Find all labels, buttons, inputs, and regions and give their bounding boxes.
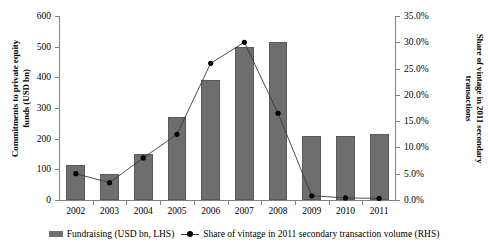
line-marker <box>343 195 348 200</box>
x-tick <box>295 201 296 205</box>
chart-legend: Fundraising (USD bn, LHS) Share of vinta… <box>0 229 488 239</box>
dual-axis-chart: Commitments to private equity funds (USD… <box>0 0 488 250</box>
right-tick <box>396 69 400 70</box>
left-tick-label: 500 <box>0 42 51 52</box>
x-axis-label: 2011 <box>358 206 400 216</box>
x-tick <box>228 201 229 205</box>
bar-swatch-icon <box>49 231 63 237</box>
right-tick-label: 5.0% <box>404 169 464 179</box>
line-marker <box>107 180 112 185</box>
line-series <box>59 16 396 201</box>
left-tick-label: 600 <box>0 11 51 21</box>
line-marker <box>141 155 146 160</box>
line-markers <box>73 40 382 201</box>
x-tick <box>160 201 161 205</box>
x-tick <box>194 201 195 205</box>
line-path <box>76 42 379 198</box>
right-tick <box>396 147 400 148</box>
legend-label-fundraising: Fundraising (USD bn, LHS) <box>67 229 175 239</box>
x-tick <box>362 201 363 205</box>
x-tick <box>93 201 94 205</box>
right-tick <box>396 95 400 96</box>
right-tick-label: 10.0% <box>404 142 464 152</box>
x-tick <box>329 201 330 205</box>
left-axis-title: Commitments to private equity funds (USD… <box>10 34 31 164</box>
left-tick-label: 100 <box>0 164 51 174</box>
line-marker <box>73 171 78 176</box>
right-tick-label: 25.0% <box>404 64 464 74</box>
right-tick-label: 30.0% <box>404 37 464 47</box>
line-marker <box>208 61 213 66</box>
right-tick-label: 35.0% <box>404 11 464 21</box>
right-tick <box>396 121 400 122</box>
line-marker <box>309 193 314 198</box>
line-marker <box>242 40 247 45</box>
x-tick <box>126 201 127 205</box>
right-tick-label: 15.0% <box>404 116 464 126</box>
x-tick <box>261 201 262 205</box>
right-axis-title: Share of vintage in 2011 secondary trans… <box>464 34 485 164</box>
left-tick-label: 300 <box>0 103 51 113</box>
legend-item-fundraising: Fundraising (USD bn, LHS) <box>49 229 175 239</box>
legend-item-share: Share of vintage in 2011 secondary trans… <box>181 229 439 239</box>
left-tick-label: 400 <box>0 72 51 82</box>
right-tick <box>396 174 400 175</box>
line-marker <box>174 132 179 137</box>
legend-label-share: Share of vintage in 2011 secondary trans… <box>203 229 439 239</box>
plot-area: 0100200300400500600 0.0%5.0%10.0%15.0%20… <box>59 16 396 200</box>
right-tick <box>396 200 400 201</box>
left-tick-label: 0 <box>0 195 51 205</box>
line-marker-swatch-icon <box>181 231 199 238</box>
left-tick-label: 200 <box>0 134 51 144</box>
right-tick-label: 0.0% <box>404 195 464 205</box>
right-tick <box>396 16 400 17</box>
line-marker <box>377 196 382 201</box>
right-tick <box>396 42 400 43</box>
right-tick-label: 20.0% <box>404 90 464 100</box>
line-marker <box>275 111 280 116</box>
